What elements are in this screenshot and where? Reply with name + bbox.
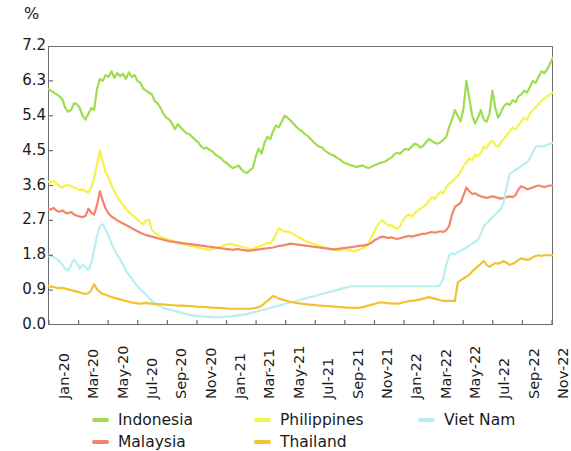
x-axis-tick-label: Jan-21 xyxy=(233,353,248,399)
y-axis-tick-label: 1.8 xyxy=(2,247,46,262)
y-axis-tick-label: 0.9 xyxy=(2,282,46,297)
series-line-philippines xyxy=(48,93,553,252)
x-axis-tick-label: Mar-22 xyxy=(439,349,454,399)
x-axis-tick-label: Jul-21 xyxy=(321,358,336,399)
chart-legend: IndonesiaMalaysiaPhilippinesThailandViet… xyxy=(92,410,532,451)
x-axis-tick-label: Mar-20 xyxy=(86,349,101,399)
x-axis-tick-label: May-20 xyxy=(116,346,131,399)
x-axis-tick-label: Nov-21 xyxy=(380,347,395,399)
x-axis-tick-label: Mar-21 xyxy=(262,349,277,399)
legend-item-philippines[interactable]: Philippines xyxy=(254,410,364,430)
legend-item-label: Thailand xyxy=(280,434,347,450)
legend-item-malaysia[interactable]: Malaysia xyxy=(92,432,186,451)
legend-item-label: Philippines xyxy=(280,412,364,428)
x-axis-tick-label: Jul-20 xyxy=(145,358,160,399)
legend-swatch-icon xyxy=(92,440,109,444)
x-axis-tick-label: Nov-20 xyxy=(204,347,219,399)
y-axis-tick-label: 3.6 xyxy=(2,178,46,193)
x-axis-tick-label: Nov-22 xyxy=(556,347,571,399)
x-axis-tick-label: Sep-22 xyxy=(527,348,542,399)
y-axis-tick-labels: 0.00.91.82.73.64.55.46.37.2 xyxy=(0,0,46,451)
y-axis-tick-label: 7.2 xyxy=(2,38,46,53)
legend-item-thailand[interactable]: Thailand xyxy=(254,432,347,451)
x-axis-tick-label: Sep-21 xyxy=(351,348,366,399)
legend-item-viet-nam[interactable]: Viet Nam xyxy=(418,410,515,430)
legend-swatch-icon xyxy=(254,440,271,444)
y-axis-tick-label: 0.0 xyxy=(2,317,46,332)
x-axis-tick-label: May-22 xyxy=(468,346,483,399)
y-axis-tick-label: 5.4 xyxy=(2,108,46,123)
y-axis-ticks xyxy=(48,81,53,290)
y-axis-tick-label: 6.3 xyxy=(2,73,46,88)
legend-swatch-icon xyxy=(92,418,109,422)
series-line-viet-nam xyxy=(48,143,553,317)
x-axis-tick-label: Jan-22 xyxy=(409,353,424,399)
legend-item-label: Viet Nam xyxy=(444,412,515,428)
x-axis-tick-label: Jan-20 xyxy=(57,353,72,399)
legend-item-label: Malaysia xyxy=(118,434,186,450)
legend-swatch-icon xyxy=(254,418,271,422)
x-axis-ticks xyxy=(49,320,552,325)
legend-item-indonesia[interactable]: Indonesia xyxy=(92,410,193,430)
y-axis-tick-label: 4.5 xyxy=(2,143,46,158)
x-axis-tick-label: May-21 xyxy=(292,346,307,399)
x-axis-tick-label: Sep-20 xyxy=(174,348,189,399)
x-axis-tick-label: Jul-22 xyxy=(497,358,512,399)
series-plot xyxy=(48,46,553,325)
legend-item-label: Indonesia xyxy=(118,412,193,428)
y-axis-tick-label: 2.7 xyxy=(2,212,46,227)
x-axis-tick-labels: Jan-20Mar-20May-20Jul-20Sep-20Nov-20Jan-… xyxy=(48,327,553,405)
legend-swatch-icon xyxy=(418,418,435,422)
